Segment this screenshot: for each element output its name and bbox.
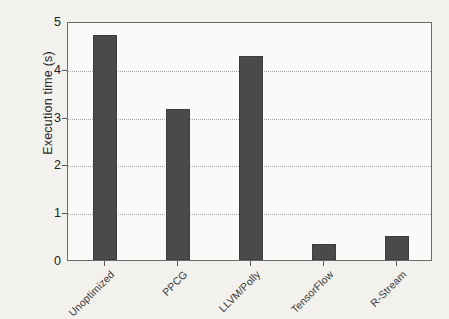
bar-chart-figure: Execution time (s) 012345 UnoptimizedPPC…: [0, 0, 449, 319]
bar: [312, 244, 336, 260]
x-tick-label: TensorFlow: [288, 268, 335, 315]
bar: [93, 35, 117, 260]
y-tick-label: 0: [21, 254, 61, 268]
bar: [385, 236, 409, 260]
x-tick-mark: [396, 261, 397, 266]
x-tick-mark: [250, 261, 251, 266]
y-tick-label: 1: [21, 206, 61, 220]
bar: [166, 109, 190, 260]
y-tick-label: 2: [21, 158, 61, 172]
x-tick-label: LLVM/Polly: [216, 268, 262, 314]
x-tick-mark: [104, 261, 105, 266]
bar: [239, 56, 263, 260]
y-tick-label: 3: [21, 111, 61, 125]
x-tick-label: Unoptimized: [65, 268, 116, 319]
y-axis-title: Execution time (s): [41, 3, 55, 203]
plot-area: [67, 22, 432, 261]
x-tick-label: R-Stream: [367, 268, 408, 309]
x-tick-label: PPCG: [159, 268, 189, 298]
y-tick-label: 5: [21, 15, 61, 29]
x-tick-mark: [323, 261, 324, 266]
y-tick-label: 4: [21, 63, 61, 77]
x-tick-mark: [177, 261, 178, 266]
